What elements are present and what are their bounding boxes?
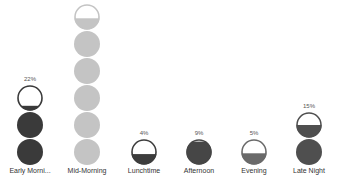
filled-circle-icon: [17, 112, 43, 138]
category-label: Late Night: [281, 167, 337, 174]
category-label: Lunchtime: [116, 167, 172, 174]
icon-stack: [186, 138, 212, 165]
category-label: Early Morni...: [2, 167, 58, 174]
value-label: 15%: [303, 103, 315, 110]
partial-circle-icon: [74, 4, 100, 30]
value-label: 4%: [140, 130, 149, 137]
filled-circle-icon: [74, 85, 100, 111]
partial-circle-icon: [241, 139, 267, 165]
partial-circle-icon: [17, 85, 43, 111]
pictograph-column: 9%: [171, 130, 227, 165]
icon-stack: [296, 111, 322, 165]
pictograph-column: 4%: [116, 130, 172, 165]
filled-circle-icon: [17, 139, 43, 165]
partial-circle-icon: [186, 139, 212, 165]
icon-stack: [17, 84, 43, 165]
filled-circle-icon: [74, 31, 100, 57]
pictograph-chart: 22%Early Morni...44%Mid-Morning4%Lunchti…: [0, 0, 338, 177]
category-label: Mid-Morning: [59, 167, 115, 174]
category-label: Afternoon: [171, 167, 227, 174]
value-label: 22%: [24, 76, 36, 83]
filled-circle-icon: [74, 139, 100, 165]
pictograph-column: 15%: [281, 103, 337, 165]
value-label: 9%: [195, 130, 204, 137]
category-label: Evening: [226, 167, 282, 174]
pictograph-column: 22%: [2, 76, 58, 165]
value-label: 44%: [81, 0, 93, 2]
value-label: 5%: [250, 130, 259, 137]
icon-stack: [131, 138, 157, 165]
filled-circle-icon: [296, 139, 322, 165]
partial-circle-icon: [296, 112, 322, 138]
pictograph-column: 44%: [59, 0, 115, 165]
filled-circle-icon: [74, 112, 100, 138]
pictograph-column: 5%: [226, 130, 282, 165]
filled-circle-icon: [74, 58, 100, 84]
partial-circle-icon: [131, 139, 157, 165]
icon-stack: [241, 138, 267, 165]
icon-stack: [74, 3, 100, 165]
